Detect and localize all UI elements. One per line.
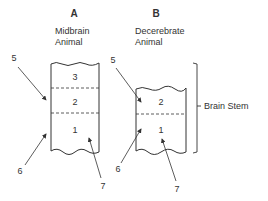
panel-b-label-6: 6: [115, 164, 120, 174]
panel-b-segment-2: 2: [158, 97, 163, 107]
panel-a-segment-2: 2: [72, 97, 77, 107]
panel-b-title-1: Decerebrate: [135, 26, 185, 36]
panel-a: A Midbrain Animal 3 2 1 5 6 7: [11, 8, 105, 191]
panel-a-segment-1: 1: [72, 125, 77, 135]
panel-a-label-6: 6: [17, 166, 22, 176]
panel-a-arrow-6: [25, 134, 46, 165]
panel-a-arrow-5: [18, 67, 46, 100]
panel-b: B Decerebrate Animal 2 1 5 6 7: [110, 8, 186, 194]
panel-a-label-7: 7: [100, 181, 105, 191]
panel-b-title-2: Animal: [135, 37, 163, 47]
panel-b-letter: B: [152, 8, 159, 19]
panel-b-label-7: 7: [174, 184, 179, 194]
panel-a-label-5: 5: [11, 53, 16, 63]
panel-b-segment-1: 1: [158, 125, 163, 135]
panel-b-label-5: 5: [110, 55, 115, 65]
brain-stem-bracket: Brain Stem: [193, 63, 249, 153]
panel-a-letter: A: [70, 8, 77, 19]
panel-a-title-1: Midbrain: [55, 26, 90, 36]
brain-stem-label: Brain Stem: [204, 101, 249, 111]
panel-b-arrow-6: [121, 129, 141, 163]
panel-b-arrow-7: [162, 139, 176, 181]
panel-a-title-2: Animal: [55, 37, 83, 47]
panel-b-arrow-5: [116, 68, 141, 102]
brainstem-diagram: A Midbrain Animal 3 2 1 5 6 7 B Decerebr…: [0, 0, 268, 201]
panel-a-segment-3: 3: [72, 72, 77, 82]
